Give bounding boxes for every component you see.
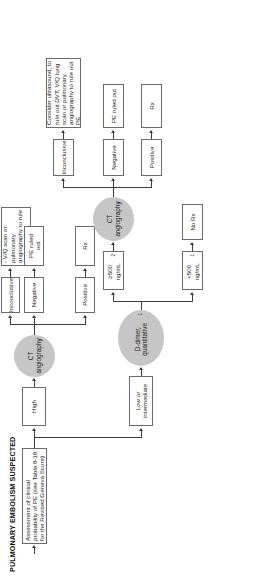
arrowhead-low-to-ddimer [139,367,143,370]
node-low-pe-ruled-out: PE ruled out [103,84,124,128]
arrowhead-inconclusive-to-consider [8,268,12,271]
node-high: High [22,387,46,426]
node-low-rx: Rx [141,84,162,128]
arrowhead-ddimerhigh-to-ct [111,242,115,245]
node-low-inconclusive: Inconclusive [53,139,74,176]
arrowhead-negative-to-ruledout [32,268,36,271]
connector-ddimer-out [141,302,142,310]
connector-ddimer-split [113,301,192,302]
arrowhead-ddimerlow-to-norx [190,242,194,245]
node-no-rx: No Rx [182,204,203,240]
arrowhead-lownegative-to-ruledout [111,130,115,133]
arrowhead-title-to-assessment [32,545,36,548]
ddimer-low-threshold-label: <500 ng/mL [185,257,200,287]
oval-ct-angiography-low: CT angiography [93,197,134,241]
connector-cthigh-split [10,324,85,325]
flowchart-canvas: PULMONARY EMBOLISM SUSPECTED Assessment … [0,0,280,578]
oval-d-dimer: D-dimer, quantitative1 [118,310,164,366]
arrowhead-to-high [32,428,36,431]
arrowhead-ddimer-high [111,292,115,295]
arrowhead-lowpositive-to-rx [149,130,153,133]
diagram-title: PULMONARY EMBOLISM SUSPECTED [8,437,17,572]
arrowhead-positive-to-rx [83,268,87,271]
connector-cthigh-out [34,325,35,335]
connector-assessment-split [34,437,141,438]
node-ddimer-low-threshold: <500 ng/mL1 [182,251,203,290]
arrowhead-high-to-ct [32,378,36,381]
node-high-rx: Rx [75,226,95,266]
arrowhead-cthigh-inconclusive [8,315,12,318]
arrowhead-lowinconclusive-to-consider [61,130,65,133]
assessment-box: Assessment of clinical probability of PE… [22,448,47,544]
arrowhead-ctlow-positive [149,178,153,181]
connector-assessment-out [34,438,35,448]
node-ddimer-high-threshold: ≥500 ng/mL2 [103,251,124,290]
node-low-or-intermediate: Low or intermediate [129,376,153,426]
arrowhead-ctlow-inconclusive [61,178,65,181]
arrowhead-cthigh-negative [32,315,36,318]
node-high-inconclusive: Inconclusive [1,277,20,313]
arrowhead-to-low [139,428,143,431]
oval-ct-angiography-high: CT angiography [14,335,55,377]
node-low-negative: Negative [103,139,124,176]
node-high-positive: Positive [75,277,95,313]
arrowhead-cthigh-positive [83,315,87,318]
oval-d-dimer-label: D-dimer, quantitative [134,316,149,363]
node-low-consider-action: Consider ultrasound, to rule out DVT, V/… [46,58,81,128]
connector-ctlow-out [113,188,114,197]
node-high-pe-ruled-out: PE ruled out [24,226,44,266]
node-low-positive: Positive [141,139,162,176]
arrowhead-ctlow-negative [111,178,115,181]
connector-ctlow-split [63,187,151,188]
ddimer-high-threshold-label: ≥500 ng/mL [106,257,121,287]
node-high-negative: Negative [24,277,44,313]
connector-title-to-assessment [34,547,35,554]
arrowhead-ddimer-low [190,292,194,295]
